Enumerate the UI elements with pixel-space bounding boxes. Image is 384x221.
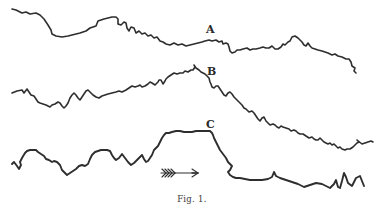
curve-a <box>12 9 356 73</box>
curve-c-label: C <box>206 119 215 130</box>
river-profiles-figure <box>0 0 384 221</box>
feathered-arrow-icon <box>161 169 198 177</box>
curve-b <box>12 65 373 150</box>
curve-c <box>12 131 364 188</box>
curve-b-label: B <box>207 66 216 77</box>
figure-caption: Fig. 1. <box>0 194 384 204</box>
curve-a-label: A <box>206 24 215 35</box>
